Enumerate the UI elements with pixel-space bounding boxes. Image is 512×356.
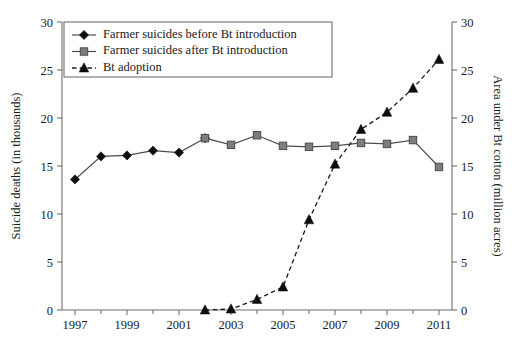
legend-label-0: Farmer suicides before Bt introduction [103,27,297,41]
series-line-2 [205,59,439,310]
data-point-s2-2003 [226,304,236,313]
legend-marker-square-icon [80,48,87,55]
legend-label-2: Bt adoption [103,60,162,74]
x-tick-label-1997: 1997 [63,318,88,332]
y-tick-label-left-20: 20 [41,112,54,126]
data-point-s1-2011 [435,163,442,170]
data-point-s1-2005 [279,142,286,149]
data-point-s2-2006 [304,215,314,224]
x-tick-label-2003: 2003 [219,318,244,332]
data-point-s1-2010 [409,136,416,143]
series-group [70,54,443,314]
legend-label-1: Farmer suicides after Bt introduction [103,43,288,57]
y-tick-label-right-25: 25 [461,64,474,78]
data-point-s1-2002 [201,134,208,141]
y-tick-label-right-30: 30 [461,16,474,30]
y-tick-label-left-10: 10 [41,208,54,222]
data-point-s2-2010 [408,83,418,92]
axis-title-right: Area under Bt cotton (million acres) [491,75,505,257]
x-tick-label-1999: 1999 [115,318,140,332]
y-tick-label-left-30: 30 [41,16,54,30]
line-chart: 051015202530Suicide deaths (in thousands… [0,0,512,356]
y-tick-label-left-15: 15 [41,160,54,174]
data-point-s2-2007 [330,159,340,168]
y-tick-label-right-15: 15 [461,160,474,174]
y-tick-label-left-0: 0 [47,304,53,318]
data-point-s0-2001 [174,148,183,157]
y-tick-label-right-10: 10 [461,208,474,222]
series-line-1 [205,135,439,167]
x-tick-label-2011: 2011 [427,318,452,332]
legend-group: Farmer suicides before Bt introductionFa… [64,22,332,77]
data-point-s2-2005 [278,282,288,291]
data-point-s1-2009 [383,140,390,147]
axis-title-left: Suicide deaths (in thousands) [9,93,23,240]
y-tick-label-right-20: 20 [461,112,474,126]
y-tick-label-left-25: 25 [41,64,54,78]
x-tick-label-2005: 2005 [271,318,296,332]
data-point-s1-2003 [227,141,234,148]
data-point-s2-2004 [252,294,262,303]
data-point-s2-2011 [434,54,444,63]
chart-container: 051015202530Suicide deaths (in thousands… [0,0,512,356]
data-point-s0-2000 [148,146,157,155]
data-point-s0-1999 [122,151,131,160]
x-tick-label-2009: 2009 [375,318,400,332]
data-point-s2-2008 [356,124,366,133]
data-point-s1-2006 [305,143,312,150]
data-point-s1-2004 [253,132,260,139]
data-point-s1-2007 [331,142,338,149]
x-tick-label-2001: 2001 [167,318,192,332]
x-tick-label-2007: 2007 [323,318,348,332]
y-tick-label-right-5: 5 [461,256,467,270]
series-line-0 [75,138,205,179]
y-tick-label-left-5: 5 [47,256,53,270]
data-point-s1-2008 [357,139,364,146]
y-tick-label-right-0: 0 [461,304,467,318]
